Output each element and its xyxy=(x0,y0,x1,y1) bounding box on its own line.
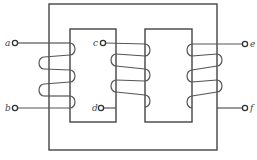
terminal-c xyxy=(100,40,105,45)
wire-segment xyxy=(192,80,217,82)
wire-segment xyxy=(116,54,145,56)
wire-segment xyxy=(44,82,70,84)
wire-segment xyxy=(116,80,145,81)
winding-cd xyxy=(104,43,150,108)
label-e: e xyxy=(250,39,255,49)
lead-c xyxy=(106,43,145,44)
coil-loop xyxy=(70,96,75,108)
coil-loop xyxy=(70,43,75,55)
coil-loop xyxy=(145,69,150,81)
wire-segment xyxy=(44,55,70,57)
coil-loop xyxy=(187,70,192,82)
transformer-core xyxy=(49,4,217,150)
core-right-window xyxy=(145,29,192,122)
coil-loop xyxy=(217,54,222,66)
coil-loop xyxy=(39,84,44,96)
coil-loop xyxy=(111,80,116,92)
coil-loop xyxy=(217,80,222,92)
wire-segment xyxy=(116,92,145,95)
coil-loop xyxy=(70,70,75,82)
wire-segment xyxy=(116,66,145,69)
terminal-f xyxy=(242,105,247,110)
coil-loop xyxy=(187,44,192,56)
label-d: d xyxy=(92,103,98,113)
label-f: f xyxy=(249,103,255,113)
coil-loop xyxy=(39,57,44,69)
transformer-diagram: a b c d e f xyxy=(0,0,257,160)
terminal-e xyxy=(242,41,247,46)
terminal-d xyxy=(98,105,103,110)
winding-ef xyxy=(187,44,242,108)
terminal-b xyxy=(12,105,17,110)
coil-loop xyxy=(111,54,116,66)
coil-loop xyxy=(145,44,150,56)
label-c: c xyxy=(93,38,98,48)
terminal-a xyxy=(12,40,17,45)
wire-segment xyxy=(44,69,70,70)
coil-loop xyxy=(145,95,150,107)
winding-ab xyxy=(18,43,75,108)
wire-segment xyxy=(192,92,217,96)
label-a: a xyxy=(5,38,10,48)
wire-segment xyxy=(192,66,217,70)
coil-loop xyxy=(187,96,192,108)
label-b: b xyxy=(5,103,11,113)
wire-segment xyxy=(192,54,217,56)
